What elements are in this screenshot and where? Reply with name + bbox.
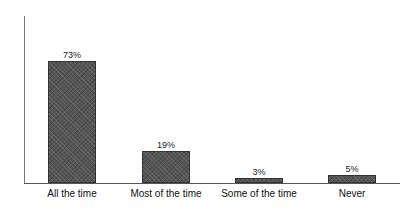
bar-chart: 73% All the time 19% Most of the time 3%… <box>0 0 420 218</box>
value-label-some-of-the-time: 3% <box>229 167 289 177</box>
value-label-most-of-the-time: 19% <box>136 140 196 150</box>
value-label-all-the-time: 73% <box>42 50 102 60</box>
bar-never <box>328 175 376 183</box>
value-label-never: 5% <box>322 164 382 174</box>
y-axis-line <box>24 16 25 184</box>
bar-all-the-time <box>48 61 96 183</box>
category-label-never: Never <box>297 188 407 199</box>
bar-some-of-the-time <box>235 178 283 183</box>
bar-most-of-the-time <box>142 151 190 183</box>
x-axis-line <box>24 183 400 184</box>
